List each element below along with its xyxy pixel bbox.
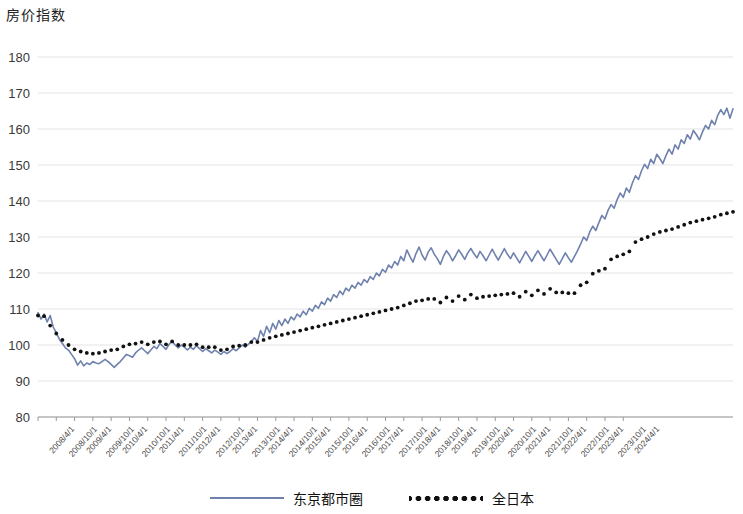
x-axis-tick-marks — [38, 417, 623, 421]
y-axis-tick-label: 160 — [0, 122, 30, 137]
y-axis-tick-label: 120 — [0, 266, 30, 281]
gridlines — [38, 57, 733, 417]
data-series-layer — [36, 108, 735, 367]
legend-dot-swatch-dotted — [409, 495, 483, 502]
legend-label-tokyo: 东京都市圈 — [293, 488, 363, 508]
legend-label-japan: 全日本 — [492, 488, 534, 508]
y-axis-tick-label: 140 — [0, 194, 30, 209]
y-axis-tick-label: 110 — [0, 302, 30, 317]
y-axis-tick-label: 100 — [0, 338, 30, 353]
chart-legend: 东京都市圈 全日本 — [0, 488, 743, 508]
legend-item-tokyo[interactable]: 东京都市圈 — [210, 488, 363, 508]
series-line-0 — [38, 108, 733, 367]
y-axis-tick-label: 80 — [0, 410, 30, 425]
y-axis-tick-label: 150 — [0, 158, 30, 173]
y-axis-tick-label: 130 — [0, 230, 30, 245]
series-dots-1 — [36, 210, 735, 356]
chart-title: 房价指数 — [6, 4, 66, 24]
y-axis-tick-label: 180 — [0, 50, 30, 65]
housing-price-index-chart: 房价指数 1801701601501401301201101009080 200… — [0, 0, 743, 514]
y-axis-tick-label: 90 — [0, 374, 30, 389]
y-axis-tick-label: 170 — [0, 86, 30, 101]
legend-line-swatch-solid — [210, 497, 284, 499]
legend-item-japan[interactable]: 全日本 — [409, 488, 534, 508]
